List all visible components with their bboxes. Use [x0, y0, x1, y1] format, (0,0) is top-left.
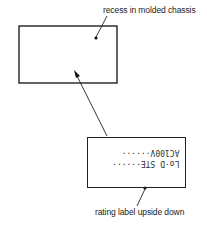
rating-label-box: Lo·D STE······ AC100V······ [87, 137, 186, 188]
chassis-recess [19, 26, 117, 83]
rating-leader-line [137, 189, 145, 206]
diagram-lines [0, 0, 207, 236]
arrow-head-icon [74, 70, 80, 78]
rating-label-text-upside-down: Lo·D STE······ AC100V······ [112, 147, 179, 169]
recess-caption: recess in molded chassis [103, 5, 196, 15]
rating-line-2: AC100V······ [112, 147, 179, 158]
placement-arrow [77, 76, 107, 136]
rating-caption: rating label upside down [95, 207, 184, 217]
recess-leader-dot [94, 36, 97, 39]
rating-line-1: Lo·D STE······ [112, 158, 179, 169]
